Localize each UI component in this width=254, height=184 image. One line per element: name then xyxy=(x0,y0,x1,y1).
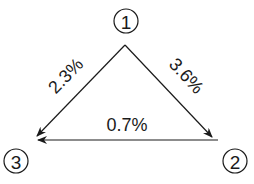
node-2: 2 xyxy=(223,149,247,173)
node-3: 3 xyxy=(4,149,28,173)
node-3-label: 3 xyxy=(11,152,22,173)
node-1: 1 xyxy=(114,9,138,33)
edge-label-2-to-3: 0.7% xyxy=(106,115,147,135)
edge-label-1-to-2: 3.6% xyxy=(165,54,208,98)
triangle-flow-diagram: 2.3% 3.6% 0.7% 1 2 3 xyxy=(0,0,254,184)
node-1-label: 1 xyxy=(121,12,132,33)
node-2-label: 2 xyxy=(230,152,241,173)
